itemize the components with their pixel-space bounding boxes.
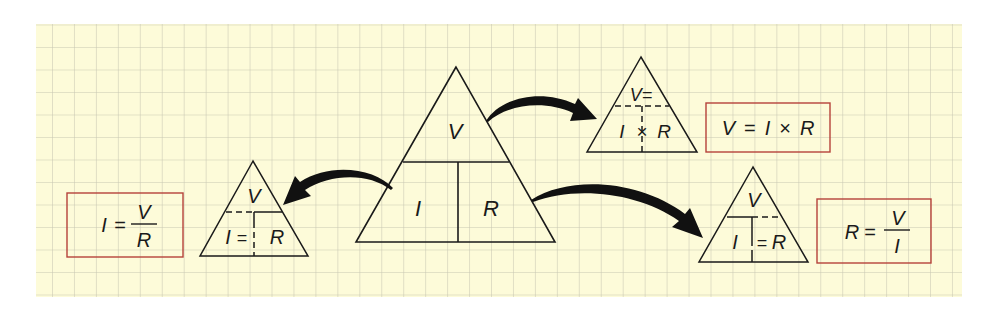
current-formula-lhs: I — [101, 214, 107, 236]
voltage-formula-lhs: V — [722, 117, 737, 139]
current-triangle-right-label: R — [270, 226, 284, 248]
ohms-law-diagram: V I R V= I × R V = I × R V I = — [0, 0, 993, 313]
current-triangle-top-label: V — [247, 185, 262, 207]
main-triangle-left-label: I — [415, 196, 421, 221]
svg-text:V = I ×: V = I × R — [722, 117, 815, 139]
resistance-triangle-right-label: R — [772, 231, 786, 253]
main-triangle-right-label: R — [483, 196, 499, 221]
voltage-formula-op: × — [779, 117, 791, 139]
voltage-formula-b: R — [800, 117, 814, 139]
resistance-formula-eq: = — [864, 221, 876, 243]
resistance-formula-num: V — [891, 207, 906, 229]
resistance-triangle-operator: = — [757, 233, 768, 253]
resistance-triangle-left-label: I — [732, 231, 738, 253]
graph-paper — [36, 24, 962, 297]
voltage-triangle-top-label: V= — [630, 85, 653, 105]
resistance-formula-den: I — [894, 235, 900, 257]
voltage-formula-a: I — [765, 117, 771, 139]
resistance-formula-lhs: R — [845, 221, 859, 243]
voltage-triangle-operator: × — [636, 121, 647, 142]
current-triangle-operator: = — [237, 228, 248, 248]
current-formula-num: V — [137, 201, 152, 223]
resistance-triangle-top-label: V — [747, 189, 762, 211]
main-triangle-top-label: V — [448, 119, 465, 144]
voltage-triangle-left-label: I — [619, 121, 625, 142]
voltage-triangle-right-label: R — [657, 121, 671, 142]
current-triangle-left-label: I — [225, 226, 231, 248]
current-formula-den: R — [137, 229, 151, 251]
voltage-formula-eq: = — [744, 117, 756, 139]
current-formula-eq: = — [114, 214, 126, 236]
